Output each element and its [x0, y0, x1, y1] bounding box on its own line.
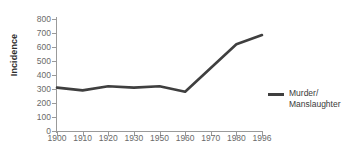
chart-legend: Murder/ Manslaughter — [268, 88, 341, 110]
y-tick-label: 400 — [25, 71, 51, 80]
y-tick-label: 300 — [25, 85, 51, 94]
x-tick-label: 1996 — [245, 134, 279, 143]
y-tick-label: 700 — [25, 29, 51, 38]
x-axis-tick-labels: 190019101920193019501960197019801996 — [0, 134, 354, 148]
legend-swatch-murder-manslaughter — [268, 93, 284, 96]
y-tick-label: 100 — [25, 113, 51, 122]
y-axis-label: Incidence — [9, 23, 19, 87]
y-tick-label: 200 — [25, 99, 51, 108]
series-path — [57, 35, 262, 92]
plot-area — [57, 19, 262, 131]
y-tick-label: 500 — [25, 57, 51, 66]
y-tick-label: 800 — [25, 15, 51, 24]
legend-label-murder-manslaughter: Murder/ Manslaughter — [289, 88, 341, 110]
y-tick-label: 600 — [25, 43, 51, 52]
series-line-murder-manslaughter — [57, 19, 262, 131]
chart-container: Incidence 8007006005004003002001000 1900… — [0, 0, 354, 164]
